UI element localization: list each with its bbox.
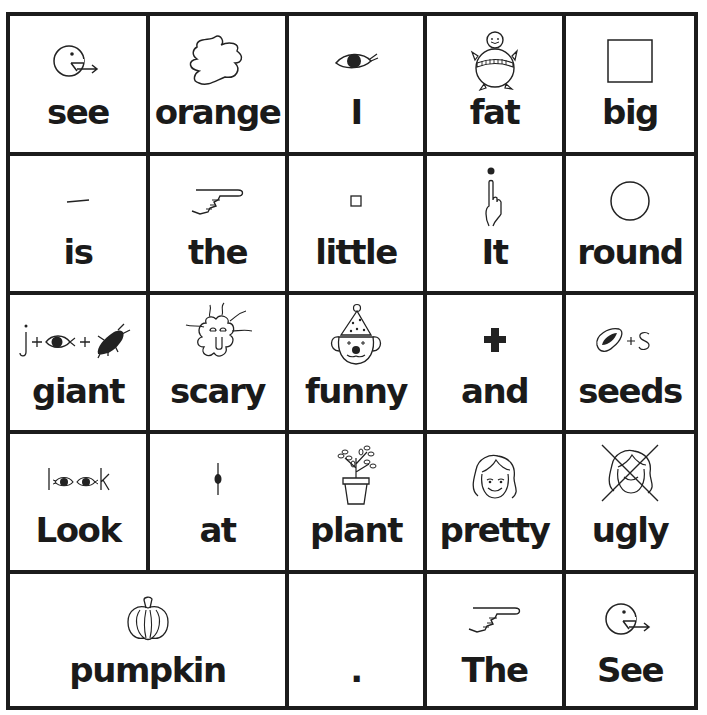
card-word: round [566, 230, 694, 274]
at-line-dot-icon [212, 461, 224, 497]
pumpkin-icon [124, 596, 172, 642]
card-word: . [289, 648, 423, 692]
pointing-hand-icon [467, 604, 523, 634]
orange-blob-icon [185, 33, 251, 89]
symbol-card-is[interactable]: is [10, 156, 146, 291]
card-word: big [566, 90, 694, 134]
card-word: little [289, 230, 423, 274]
card-word: seeds [566, 369, 694, 413]
card-word: plant [289, 508, 423, 552]
j-eye-bug-icon [18, 320, 138, 360]
clown-icon [327, 303, 385, 369]
card-word: see [10, 90, 146, 134]
symbol-card-giant[interactable]: giant [10, 295, 146, 430]
pretty-face-icon [468, 454, 522, 504]
symbol-card-The[interactable]: The [427, 574, 562, 706]
pointing-hand-icon [190, 186, 246, 216]
symbol-card-pretty[interactable]: pretty [427, 434, 562, 570]
card-word: pretty [427, 508, 562, 552]
symbol-card-the[interactable]: the [150, 156, 285, 291]
symbol-card-little[interactable]: little [289, 156, 423, 291]
symbol-card-scary[interactable]: scary [150, 295, 285, 430]
symbol-card-big[interactable]: big [566, 16, 694, 152]
symbol-card-I[interactable]: I [289, 16, 423, 152]
card-word: The [427, 648, 562, 692]
symbol-card-seeds[interactable]: seeds [566, 295, 694, 430]
see-icon [605, 599, 655, 639]
card-word: ugly [566, 508, 694, 552]
finger-point-up-icon [483, 166, 507, 228]
symbol-card-fat[interactable]: fat [427, 16, 562, 152]
symbol-card-and[interactable]: and [427, 295, 562, 430]
symbol-card-at[interactable]: at [150, 434, 285, 570]
circle-icon [608, 179, 652, 223]
card-word: pumpkin [10, 648, 285, 692]
symbol-card-round[interactable]: round [566, 156, 694, 291]
card-word: scary [150, 369, 285, 413]
symbol-card-orange[interactable]: orange [150, 16, 285, 152]
plus-icon [483, 326, 507, 354]
card-word: It [427, 230, 562, 274]
symbol-card-pumpkin[interactable]: pumpkin [10, 574, 285, 706]
communication-board: see orange I [6, 12, 698, 710]
look-eyes-icon [43, 464, 113, 494]
card-word: fat [427, 90, 562, 134]
card-word: orange [150, 90, 285, 134]
small-square-icon [349, 194, 363, 208]
symbol-card-period[interactable]: . [289, 574, 423, 706]
dash-icon [63, 196, 93, 206]
symbol-card-funny[interactable]: funny [289, 295, 423, 430]
card-word: funny [289, 369, 423, 413]
card-word: is [10, 230, 146, 274]
card-word: at [150, 508, 285, 552]
crossed-face-icon [598, 443, 662, 503]
fat-person-icon [470, 30, 520, 92]
card-word: See [566, 648, 694, 692]
card-word: giant [10, 369, 146, 413]
seed-plus-s-icon [593, 325, 667, 355]
symbol-card-ugly[interactable]: ugly [566, 434, 694, 570]
symbol-card-see[interactable]: see [10, 16, 146, 152]
see-icon [53, 41, 103, 81]
card-word: the [150, 230, 285, 274]
symbol-card-See[interactable]: See [566, 574, 694, 706]
card-word: Look [10, 508, 146, 552]
scary-face-icon [176, 303, 260, 365]
potted-plant-icon [331, 444, 381, 506]
symbol-card-Look[interactable]: Look [10, 434, 146, 570]
card-word: I [289, 90, 423, 134]
symbol-card-plant[interactable]: plant [289, 434, 423, 570]
big-square-icon [606, 38, 654, 84]
eye-icon [333, 48, 379, 74]
card-word: and [427, 369, 562, 413]
symbol-card-It[interactable]: It [427, 156, 562, 291]
